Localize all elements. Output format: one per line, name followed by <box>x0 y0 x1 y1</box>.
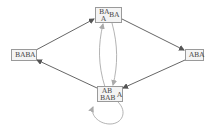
node-top[interactable]: BA A BA <box>95 7 122 23</box>
edge-bottom-to-top <box>99 24 105 87</box>
edge-aba-to-bottom <box>123 60 185 88</box>
edge-bottom-to-baba <box>37 60 97 88</box>
node-bottom-part-3: A <box>117 92 122 99</box>
edge-baba-to-top <box>36 19 94 50</box>
edge-top-to-aba <box>122 19 184 50</box>
node-top-part-2: A <box>101 16 106 23</box>
node-bottom[interactable]: AB BAB A <box>97 86 123 102</box>
edge-top-to-bottom <box>112 23 117 85</box>
node-right-label: ABA <box>189 52 204 59</box>
node-left-label: BABA <box>15 52 35 59</box>
node-left[interactable]: BABA <box>11 49 37 61</box>
node-bottom-part-2: BAB <box>100 95 115 102</box>
edge-bottom-self-loop <box>92 102 123 124</box>
node-top-part-3: BA <box>109 12 119 19</box>
state-diagram: BA A BA BABA ABA AB BAB A <box>0 0 215 132</box>
node-right[interactable]: ABA <box>185 49 204 61</box>
